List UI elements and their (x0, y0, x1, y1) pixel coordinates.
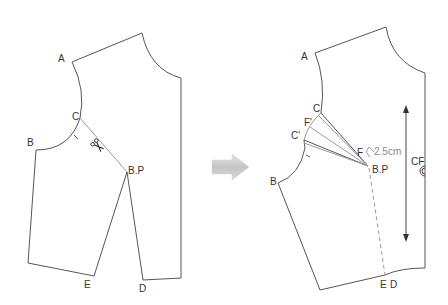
label-b: B (27, 137, 34, 148)
label-c-prime: C' (291, 130, 300, 141)
closed-dart-line (369, 168, 385, 275)
label-a-after: A (301, 51, 308, 62)
measure-tick (366, 147, 374, 157)
label-cf: CF (411, 156, 424, 167)
label-a: A (58, 53, 65, 64)
label-c-after: C (313, 103, 320, 114)
label-bp: B.P (128, 165, 144, 176)
label-d: D (139, 283, 146, 294)
label-c: C (72, 111, 79, 122)
arrow-right-icon (212, 154, 249, 180)
cut-line (80, 118, 127, 172)
bodice-dart-manipulation-diagram: A B C B.P E D (0, 0, 448, 305)
label-bp-after: B.P (372, 164, 388, 175)
bodice-after: A B C F' C' F 2.5cm B.P CF E D (270, 27, 425, 290)
grainline-arrow-icon (403, 105, 409, 242)
label-f-prime: F' (304, 117, 312, 128)
bodice-after-outline (278, 27, 425, 290)
label-f: F (357, 147, 363, 158)
bodice-before-outline (28, 33, 181, 280)
armhole-notch-after (306, 155, 310, 157)
measurement-label: 2.5cm (374, 146, 401, 157)
label-e: E (84, 279, 91, 290)
armhole-notch (74, 135, 78, 139)
dart-leg-c-inner (318, 115, 368, 166)
scissors-icon (90, 138, 105, 153)
bodice-before: A B C B.P E D (27, 33, 181, 294)
label-d-after: D (390, 279, 397, 290)
label-e-after: E (380, 279, 387, 290)
button-mark-icon (420, 166, 425, 176)
label-b-after: B (270, 176, 277, 187)
